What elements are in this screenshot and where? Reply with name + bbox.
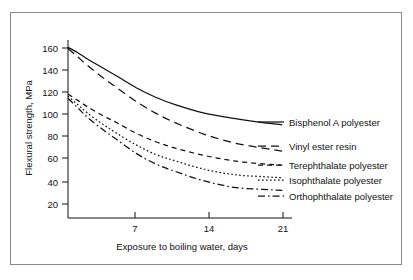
y-tick-label-80: 80 — [47, 131, 58, 142]
y-tick-label-20: 20 — [47, 199, 58, 210]
y-tick-label-160: 160 — [42, 43, 58, 54]
curve-bisphenol-a-polyester — [68, 47, 282, 124]
x-tick-label-7: 7 — [132, 223, 137, 234]
legend-entry-terephthalate-polyester: Terephthalate polyester — [258, 160, 388, 171]
x-axis-title: Exposure to boiling water, days — [116, 241, 248, 252]
y-tick-label-60: 60 — [47, 153, 58, 164]
legend-entry-orthophthalate-polyester: Orthophthalate polyester — [258, 191, 393, 202]
data-curves — [68, 47, 282, 190]
figure-root: 160 140 120 100 80 60 40 20 7 14 21 Expo… — [0, 0, 413, 280]
legend-label-bisphenol-a-polyester: Bisphenol A polyester — [289, 117, 380, 128]
legend-label-isophthalate-polyester: Isophthalate polyester — [289, 175, 382, 186]
legend-entry-bisphenol-a-polyester: Bisphenol A polyester — [258, 117, 380, 128]
y-tick-label-140: 140 — [42, 65, 58, 76]
y-axis-title: Flexural strength, MPa — [23, 80, 34, 176]
y-tick-label-120: 120 — [42, 87, 58, 98]
x-tick-marks — [135, 212, 283, 218]
y-tick-labels: 160 140 120 100 80 60 40 20 — [42, 43, 58, 210]
legend-label-vinyl-ester-resin: Vinyl ester resin — [289, 141, 356, 152]
curve-orthophthalate-polyester — [68, 98, 282, 190]
x-tick-label-21: 21 — [278, 223, 289, 234]
x-tick-label-14: 14 — [204, 223, 215, 234]
y-tick-label-40: 40 — [47, 177, 58, 188]
curve-isophthalate-polyester — [68, 96, 282, 178]
x-tick-labels: 7 14 21 — [132, 223, 288, 234]
legend-entry-isophthalate-polyester: Isophthalate polyester — [258, 175, 382, 186]
curve-vinyl-ester-resin — [68, 48, 282, 151]
legend-entry-vinyl-ester-resin: Vinyl ester resin — [258, 141, 356, 152]
legend-label-terephthalate-polyester: Terephthalate polyester — [289, 160, 388, 171]
y-tick-label-100: 100 — [42, 109, 58, 120]
legend-label-orthophthalate-polyester: Orthophthalate polyester — [289, 191, 393, 202]
flexural-strength-line-chart: 160 140 120 100 80 60 40 20 7 14 21 Expo… — [0, 0, 413, 280]
y-tick-marks — [62, 48, 68, 204]
legend: Bisphenol A polyester Vinyl ester resin … — [258, 117, 393, 202]
